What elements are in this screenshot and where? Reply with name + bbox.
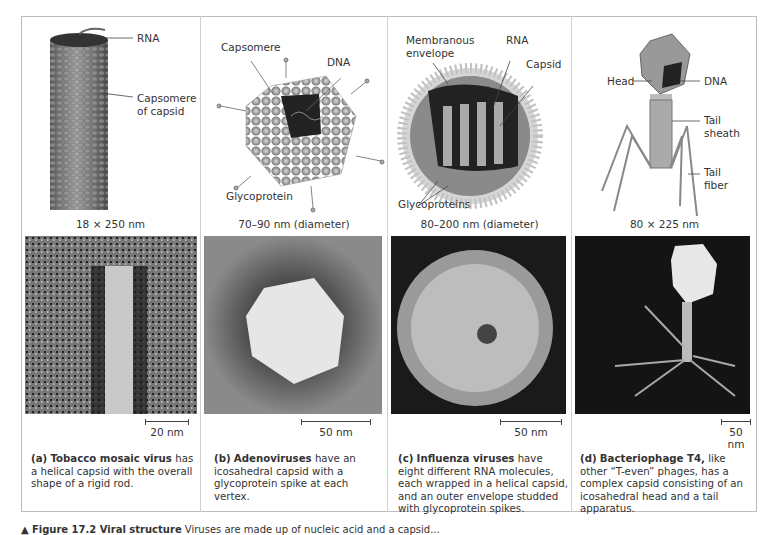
label-envelope: envelope — [406, 47, 454, 59]
scale-bar: 50 nm — [500, 419, 562, 438]
caption-c: (c) Influenza viruses have eight differe… — [398, 453, 568, 516]
dimensions: 70–90 nm (diameter) — [201, 218, 387, 230]
scale-bar: 20 nm — [145, 419, 189, 438]
label-of-capsid: of capsid — [137, 105, 184, 117]
label-fiber: fiber — [704, 179, 728, 191]
influenza-illustration: Membranous envelope RNA Capsid Glycoprot… — [388, 16, 571, 216]
panel-influenza-virus: Membranous envelope RNA Capsid Glycoprot… — [388, 16, 571, 512]
label-rna: RNA — [506, 34, 528, 46]
panel-tobacco-mosaic-virus: RNA Capsomere of capsid 18 × 250 nm 20 n… — [21, 16, 200, 512]
figure-caption: ▲ Figure 17.2 Viral structure Viruses ar… — [21, 524, 440, 535]
tmv-micrograph — [25, 236, 197, 414]
label-membranous: Membranous — [406, 34, 474, 46]
caption-a: (a) Tobacco mosaic virus has a helical c… — [31, 453, 196, 491]
dimensions: 80 × 225 nm — [572, 218, 757, 230]
dimensions: 80–200 nm (diameter) — [388, 218, 571, 230]
label-sheath: sheath — [704, 127, 740, 139]
label-capsomere: Capsomere — [221, 41, 281, 53]
label-tail-2: Tail — [704, 166, 721, 178]
scale-bar: 50 nm — [301, 419, 371, 438]
adenovirus-micrograph — [204, 236, 382, 414]
label-dna: DNA — [704, 75, 727, 87]
adenovirus-illustration: Capsomere DNA Glycoprotein — [201, 16, 387, 216]
label-glycoprotein: Glycoprotein — [226, 190, 293, 202]
label-dna: DNA — [327, 56, 350, 68]
influenza-micrograph — [391, 236, 566, 414]
label-capsomere: Capsomere — [137, 92, 197, 104]
caption-b: (b) Adenoviruses have an icosahedral cap… — [214, 453, 384, 503]
label-capsid: Capsid — [526, 58, 561, 70]
label-rna: RNA — [137, 32, 159, 44]
label-head: Head — [607, 75, 634, 87]
dimensions: 18 × 250 nm — [21, 218, 200, 230]
label-glycoproteins: Glycoproteins — [398, 198, 470, 210]
scale-bar: 50 nm — [720, 419, 752, 450]
panel-bacteriophage-t4: Head DNA Tail sheath Tail fiber 80 × 225… — [572, 16, 757, 512]
caption-triangle-icon: ▲ — [21, 524, 32, 535]
panel-adenovirus: Capsomere DNA Glycoprotein 70–90 nm (dia… — [201, 16, 387, 512]
t4-micrograph — [575, 236, 750, 414]
t4-illustration: Head DNA Tail sheath Tail fiber — [572, 16, 757, 216]
caption-d: (d) Bacteriophage T4, like other “T-even… — [580, 453, 752, 516]
tmv-illustration: RNA Capsomere of capsid — [21, 16, 200, 216]
label-tail: Tail — [704, 114, 721, 126]
